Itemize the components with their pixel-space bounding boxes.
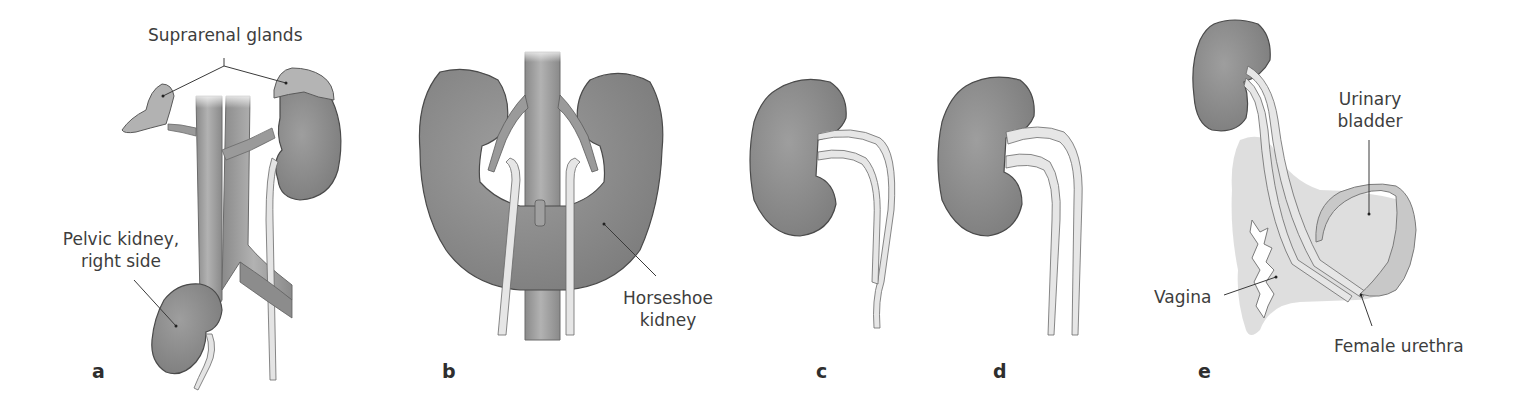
label-female-urethra: Female urethra xyxy=(1334,335,1464,357)
label-urinary-bladder-line2: bladder xyxy=(1330,110,1410,132)
panel-letter-a: a xyxy=(92,360,105,382)
label-horseshoe-line2: kidney xyxy=(618,309,718,331)
left-kidney xyxy=(276,91,341,200)
label-horseshoe-line1: Horseshoe xyxy=(618,287,718,309)
label-pelvic-kidney-line1: Pelvic kidney, xyxy=(56,228,186,250)
illustration-canvas xyxy=(0,0,1514,395)
left-ureter xyxy=(266,158,278,380)
label-urinary-bladder-line1: Urinary xyxy=(1330,88,1410,110)
inferior-vena-cava xyxy=(196,96,222,308)
label-vagina: Vagina xyxy=(1154,286,1211,308)
panel-letter-c: c xyxy=(816,360,827,382)
label-suprarenal-glands: Suprarenal glands xyxy=(148,24,303,46)
right-suprarenal-gland xyxy=(122,84,174,133)
panel-a-art xyxy=(122,58,341,390)
panel-letter-e: e xyxy=(1198,360,1211,382)
panel-c-art xyxy=(750,79,895,328)
panel-letter-b: b xyxy=(442,360,456,382)
aorta-b xyxy=(525,52,560,340)
label-pelvic-kidney-line2: right side xyxy=(56,250,186,272)
panel-d-art xyxy=(938,77,1082,335)
panel-letter-d: d xyxy=(993,360,1007,382)
panel-e-art xyxy=(1193,20,1416,335)
kidney-anomalies-figure: Suprarenal glands Pelvic kidney, right s… xyxy=(0,0,1514,395)
